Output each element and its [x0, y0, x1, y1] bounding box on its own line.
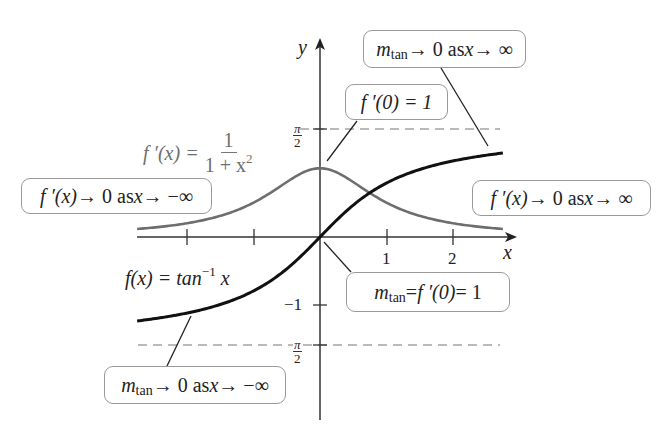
derivative-formula-denominator: 1 + x: [205, 154, 246, 176]
y-axis-label: y: [298, 37, 307, 57]
leader-mtan-inf: [441, 68, 488, 146]
x-tick-label-2: 2: [448, 250, 457, 267]
y-tick-label-pi-over-2: π2: [293, 117, 302, 150]
derivative-formula-numerator: 1: [221, 130, 237, 153]
leader-mtan-origin: [324, 242, 351, 272]
callout-mtan-neg-inf: mtan → 0 as x → −∞: [104, 366, 286, 404]
derivative-formula-exponent: 2: [246, 151, 253, 166]
derivative-formula-label: f ′(x) = 1 1 + x2: [143, 130, 252, 176]
callout-mtan-origin: mtan = f ′(0) = 1: [346, 272, 510, 312]
callout-mtan-inf: mtan → 0 as x → ∞: [363, 30, 526, 68]
arctan-formula-label: f(x) = tan−1x: [125, 268, 230, 288]
callout-fprime-neg-inf: f ′(x) → 0 as x → −∞: [21, 178, 212, 214]
x-axis-label: x: [503, 242, 512, 262]
y-tick-label-neg1: −1: [284, 296, 302, 313]
callout-fprime-pos-inf: f ′(x) → 0 as x → ∞: [472, 180, 651, 216]
derivative-formula-lhs: f ′(x) =: [143, 143, 199, 163]
x-tick-label-1: 1: [382, 250, 391, 267]
leader-fprime-zero: [327, 121, 357, 161]
callout-fprime-zero: f ′(0) = 1: [345, 84, 448, 120]
leader-mtan-neg-inf: [167, 316, 191, 366]
y-tick-label-neg-pi-over-2: π2: [293, 333, 302, 366]
